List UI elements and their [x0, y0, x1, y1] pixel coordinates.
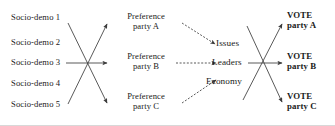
path-diagram-figure: Socio-demo 1 Socio-demo 2 Socio-demo 3 S… [0, 0, 335, 126]
node-label: Issues [216, 38, 260, 48]
node-economy: Economy [206, 76, 260, 86]
node-socio-demo-5: Socio-demo 5 [11, 100, 60, 110]
node-vote-party-a: VOTE party A [287, 11, 333, 31]
node-label: Leaders [212, 57, 260, 67]
node-label: Socio-demo 4 [11, 79, 60, 89]
node-label-line2: party C [287, 102, 333, 112]
node-label-line2: party A [114, 22, 178, 32]
node-vote-party-b: VOTE party B [287, 52, 333, 72]
node-label: Socio-demo 5 [11, 100, 60, 110]
node-socio-demo-3: Socio-demo 3 [11, 58, 60, 68]
node-vote-party-c: VOTE party C [287, 92, 333, 112]
node-socio-demo-4: Socio-demo 4 [11, 79, 60, 89]
edge-preference-a-to-issues [182, 23, 215, 44]
node-preference-party-b: Preference party B [114, 52, 178, 71]
edge-sociodemo-to-preference-up [68, 24, 107, 104]
node-label: Economy [206, 76, 260, 86]
node-label: Socio-demo 2 [11, 38, 60, 48]
node-label: Socio-demo 3 [11, 58, 60, 68]
node-label: Socio-demo 1 [11, 13, 60, 23]
node-label-line2: party C [114, 102, 178, 112]
node-label-line2: party B [114, 62, 178, 72]
node-leaders: Leaders [212, 57, 260, 67]
node-socio-demo-1: Socio-demo 1 [11, 13, 60, 23]
node-label-line2: party A [287, 21, 333, 31]
node-preference-party-c: Preference party C [114, 92, 178, 111]
node-preference-party-a: Preference party A [114, 12, 178, 31]
node-socio-demo-2: Socio-demo 2 [11, 38, 60, 48]
node-label-line2: party B [287, 62, 333, 72]
node-issues: Issues [216, 38, 260, 48]
